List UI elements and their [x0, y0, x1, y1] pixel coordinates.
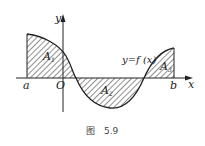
- integral-area-diagram: y x O a b y=f (x) A1 A2 A3 图 5.9: [0, 0, 205, 146]
- y-axis-label: y: [54, 12, 62, 25]
- point-a-label: a: [23, 79, 30, 92]
- hatched-area: [27, 34, 174, 108]
- curve-label: y=f (x): [121, 54, 156, 65]
- x-axis-label: x: [188, 78, 195, 91]
- figure-caption-number: 5.9: [104, 126, 119, 136]
- origin-label: O: [56, 79, 65, 92]
- point-b-label: b: [170, 79, 177, 92]
- y-axis-arrow-icon: [61, 14, 66, 22]
- figure-caption-prefix: 图: [86, 126, 95, 136]
